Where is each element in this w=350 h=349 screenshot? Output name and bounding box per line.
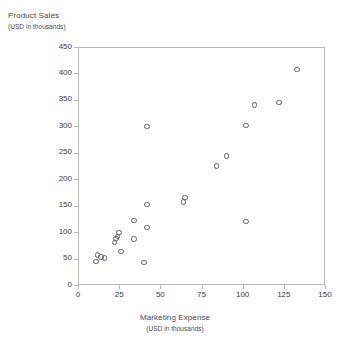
y-tick-label: 350	[26, 94, 72, 103]
x-tick-mark	[78, 285, 79, 289]
data-point	[102, 255, 107, 260]
y-tick-label: 150	[26, 200, 72, 209]
y-tick-mark	[74, 126, 78, 127]
y-tick-label: 450	[26, 42, 72, 51]
y-tick-mark	[74, 73, 78, 74]
x-tick-label: 150	[305, 290, 345, 299]
y-tick-label: 50	[26, 253, 72, 262]
data-point	[214, 163, 219, 168]
data-point	[118, 249, 123, 254]
x-tick-mark	[243, 285, 244, 289]
data-point	[141, 260, 146, 265]
y-axis-title: Product Sales	[8, 11, 59, 20]
data-point	[182, 195, 187, 200]
y-tick-label: 300	[26, 121, 72, 130]
x-tick-mark	[284, 285, 285, 289]
scatter-chart: Product Sales (USD in thousands) 0501001…	[0, 0, 350, 349]
x-tick-mark	[202, 285, 203, 289]
data-point	[131, 236, 136, 241]
y-tick-mark	[74, 179, 78, 180]
data-point	[144, 225, 149, 230]
y-tick-mark	[74, 47, 78, 48]
x-axis-title: Marketing Expense	[0, 313, 350, 322]
y-tick-label: 400	[26, 68, 72, 77]
data-point	[252, 102, 257, 107]
x-tick-label: 25	[99, 290, 139, 299]
y-tick-mark	[74, 153, 78, 154]
y-tick-mark	[74, 206, 78, 207]
x-axis-subtitle: (USD in thousands)	[0, 325, 350, 332]
data-point	[224, 153, 229, 158]
y-tick-mark	[74, 232, 78, 233]
x-tick-label: 75	[182, 290, 222, 299]
x-tick-label: 100	[223, 290, 263, 299]
x-tick-mark	[325, 285, 326, 289]
data-point	[276, 100, 281, 105]
y-tick-mark	[74, 100, 78, 101]
y-tick-label: 250	[26, 147, 72, 156]
x-tick-mark	[119, 285, 120, 289]
x-tick-label: 0	[58, 290, 98, 299]
x-tick-mark	[160, 285, 161, 289]
data-point	[131, 218, 136, 223]
y-tick-mark	[74, 259, 78, 260]
x-tick-label: 125	[264, 290, 304, 299]
data-point	[243, 219, 248, 224]
y-axis-subtitle: (USD in thousands)	[8, 23, 66, 30]
plot-area	[78, 47, 325, 285]
y-tick-label: 200	[26, 174, 72, 183]
data-point	[243, 123, 248, 128]
data-point	[144, 124, 149, 129]
y-tick-label: 100	[26, 227, 72, 236]
data-point	[181, 199, 186, 204]
x-tick-label: 50	[140, 290, 180, 299]
y-tick-label: 0	[26, 280, 72, 289]
